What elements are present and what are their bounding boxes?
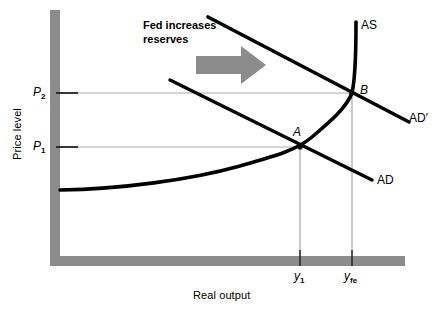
x-tick-label-yfe: yfe — [344, 270, 357, 285]
x-tick-y1-sub: 1 — [300, 276, 304, 285]
curve-label-ad-prime-base: AD — [409, 111, 426, 125]
y-tick-p2-base: P — [33, 85, 41, 99]
curve-label-ad-prime: AD′ — [409, 112, 428, 124]
y-tick-p1-sub: 1 — [41, 146, 45, 155]
annotation-line-1: Fed increases — [143, 19, 216, 33]
x-tick-yfe-sub: fe — [350, 276, 357, 285]
curve-label-ad-prime-mark: ′ — [426, 111, 428, 125]
y-axis-title-wrapper: Price level — [7, 94, 25, 174]
x-tick-label-y1: y1 — [294, 270, 304, 285]
figure-container: Price level Real output P2 P1 y1 yfe AS … — [0, 0, 434, 316]
point-b-marker — [349, 90, 354, 95]
y-axis-bar — [50, 10, 60, 266]
curve-label-ad: AD — [377, 174, 394, 186]
curve-ad — [170, 80, 372, 180]
point-a-marker — [297, 144, 302, 149]
y-tick-p2-sub: 2 — [41, 92, 45, 101]
point-label-a: A — [293, 126, 301, 138]
y-tick-label-p2: P2 — [33, 86, 45, 101]
y-tick-p1-base: P — [33, 139, 41, 153]
curve-label-as: AS — [361, 19, 377, 31]
point-label-b: B — [360, 84, 368, 96]
curve-as — [60, 22, 356, 190]
annotation-line-2: reserves — [143, 33, 216, 47]
diagram-canvas — [0, 0, 434, 316]
y-tick-label-p1: P1 — [33, 140, 45, 155]
annotation-fed-increases-reserves: Fed increases reserves — [143, 19, 216, 47]
x-axis-title: Real output — [193, 290, 250, 301]
shift-arrow-icon — [196, 46, 266, 84]
y-axis-title: Price level — [11, 108, 23, 160]
